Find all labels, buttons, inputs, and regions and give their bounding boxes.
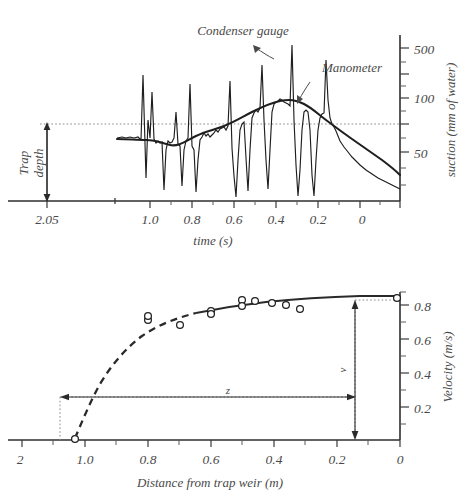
top-x-tick-label-2: 0.8 [184, 212, 201, 227]
top-chart-svg: Condenser gauge Manometer Trap depth 2.0… [0, 0, 468, 252]
top-y-ticks [400, 48, 409, 185]
bottom-x-tick-label-0: 2 [17, 452, 24, 467]
top-x-tick-label-0: 2.05 [35, 212, 59, 227]
bottom-chart-svg: z v 2 1.0 0.8 0.6 0.4 0.2 0 0.8 0.6 0.4 … [0, 252, 468, 494]
condenser-gauge-label: Condenser gauge [197, 23, 289, 38]
trap-depth-label-line1: Trap [16, 150, 31, 175]
scientific-figure: Condenser gauge Manometer Trap depth 2.0… [0, 0, 468, 494]
top-x-ticks [47, 201, 400, 208]
bottom-x-tick-label-4: 0.4 [266, 452, 283, 467]
v-symbol-label: v [336, 367, 348, 372]
data-point-marker [252, 298, 259, 305]
data-point-marker [145, 313, 152, 320]
bottom-y-ticks [400, 292, 409, 424]
z-dimension-arrow [60, 394, 356, 400]
top-x-tick-label-5: 0.2 [310, 212, 327, 227]
bottom-y-tick-label-2: 0.4 [414, 367, 431, 382]
manometer-label: Manometer [321, 60, 383, 75]
top-x-tick-label-4: 0.4 [268, 212, 285, 227]
data-point-marker [394, 295, 401, 302]
bottom-x-tick-label-3: 0.6 [203, 452, 220, 467]
z-symbol-label: z [225, 384, 231, 396]
fitted-curve-dashed [75, 313, 196, 438]
data-point-marker [72, 436, 79, 443]
manometer-leader [297, 82, 310, 104]
data-point-marker [297, 306, 304, 313]
bottom-x-axis-title: Distance from trap weir (m) [136, 475, 283, 490]
top-y-tick-label-0: 500 [414, 42, 435, 57]
bottom-y-tick-label-1: 0.6 [414, 333, 431, 348]
data-point-marker [283, 302, 290, 309]
bottom-x-tick-label-1: 1.0 [77, 452, 94, 467]
v-dimension-arrow [352, 300, 359, 440]
bottom-x-ticks [22, 440, 400, 447]
data-point-marker [239, 303, 246, 310]
velocity-data-markers [72, 295, 401, 443]
bottom-chart-panel: z v 2 1.0 0.8 0.6 0.4 0.2 0 0.8 0.6 0.4 … [0, 252, 468, 494]
data-point-marker [208, 311, 215, 318]
top-y-tick-label-1: 100 [414, 91, 435, 106]
top-x-axis-title: time (s) [193, 233, 232, 248]
bottom-x-tick-label-2: 0.8 [140, 452, 157, 467]
top-y-tick-label-2: 50 [414, 146, 428, 161]
top-x-tick-label-6: 0 [359, 212, 366, 227]
data-point-marker [177, 322, 184, 329]
top-x-tick-label-1: 1.0 [142, 212, 159, 227]
bottom-x-tick-label-6: 0 [397, 452, 404, 467]
bottom-x-tick-label-5: 0.2 [329, 452, 346, 467]
bottom-y-axis-title: Velocity (m/s) [440, 331, 455, 402]
bottom-y-tick-label-0: 0.8 [414, 299, 431, 314]
trap-depth-label-line2: depth [31, 149, 46, 178]
top-chart-panel: Condenser gauge Manometer Trap depth 2.0… [0, 0, 468, 252]
condenser-gauge-leader [253, 45, 274, 59]
data-point-marker [269, 300, 276, 307]
bottom-y-tick-label-3: 0.2 [414, 401, 431, 416]
top-y-axis-title: suction (mm of water) [443, 63, 458, 177]
top-x-tick-label-3: 0.6 [226, 212, 243, 227]
